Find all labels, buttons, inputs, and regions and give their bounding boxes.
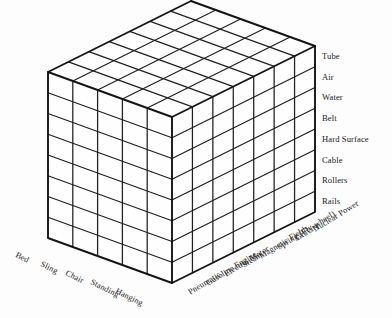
vertical-axis-label-2: Water: [322, 92, 343, 102]
vertical-axis-label-5: Cable: [322, 155, 343, 165]
vertical-axis-label-3: Belt: [322, 113, 337, 123]
vertical-axis-label-6: Rollers: [322, 175, 348, 185]
morphological-box-figure: TubeAirWaterBeltHard SurfaceCableRollers…: [0, 0, 392, 318]
vertical-axis-label-4: Hard Surface: [322, 134, 369, 144]
vertical-axis-label-7: Rails: [322, 196, 340, 206]
vertical-axis-label-0: Tube: [322, 51, 340, 61]
vertical-axis-label-1: Air: [322, 72, 334, 82]
